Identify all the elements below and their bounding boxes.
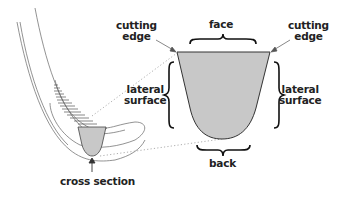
label-line: edge <box>116 31 157 42</box>
cutting-edge-leaders <box>156 40 290 52</box>
large-cross-section <box>177 52 270 139</box>
cutting-edge-right-label: cutting edge <box>288 20 329 42</box>
blade-hatching <box>54 85 97 124</box>
small-cross-section <box>78 127 106 156</box>
label-line: surface <box>124 95 167 106</box>
face-label: face <box>209 19 233 30</box>
cutting-edge-left-label: cutting edge <box>116 20 157 42</box>
blade-cross-section-diagram: cutting edge cutting edge face lateral s… <box>0 0 338 197</box>
lateral-surface-right-label: lateral surface <box>279 84 322 106</box>
lateral-surface-left-label: lateral surface <box>124 84 167 106</box>
cross-section-label: cross section <box>60 176 135 187</box>
label-line: surface <box>279 95 322 106</box>
label-line: edge <box>288 31 329 42</box>
back-label: back <box>209 158 236 169</box>
